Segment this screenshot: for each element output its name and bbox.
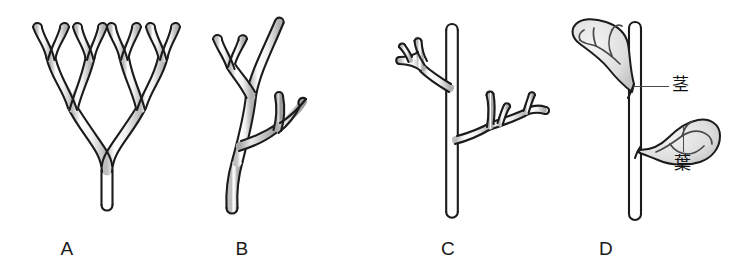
stem-label: 茎: [672, 76, 689, 93]
telome-theory-figure: A: [0, 0, 753, 273]
stem-leader-line: [633, 86, 669, 87]
panel-label-a: A: [47, 238, 87, 260]
specimen-b: [185, 0, 355, 232]
specimen-a: [18, 0, 196, 232]
specimen-d: [560, 0, 753, 232]
specimen-c: [380, 0, 570, 232]
leaf-label: 葉: [674, 155, 691, 172]
leaf-leader-line: [683, 126, 684, 152]
panel-label-c: C: [428, 238, 468, 260]
panel-label-b: B: [222, 238, 262, 260]
panel-label-d: D: [586, 238, 626, 260]
